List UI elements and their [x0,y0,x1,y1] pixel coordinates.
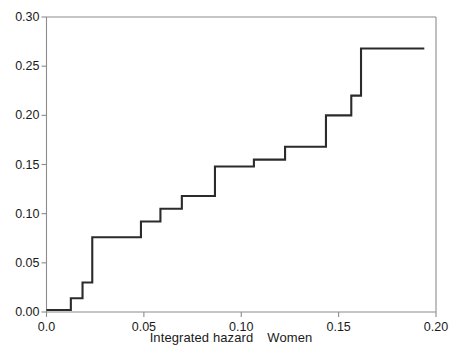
y-tick-label: 0.15 [6,159,40,172]
y-tick-label: 0.00 [6,306,40,319]
y-tick-label: 0.10 [6,208,40,221]
step-chart-plot [0,0,462,362]
y-tick-label: 0.25 [6,60,40,73]
hazard-step-line [47,48,425,310]
x-axis-title-main: Integrated hazard [150,330,254,345]
figure-container: 0.000.050.100.150.200.250.30 0.00.050.10… [0,0,462,362]
axis-frame [47,17,437,312]
y-tick-label: 0.05 [6,257,40,270]
y-tick-label: 0.30 [6,11,40,24]
y-tick-label: 0.20 [6,109,40,122]
x-axis-title: Integrated hazardWomen [0,330,462,345]
x-axis-title-group: Women [267,330,312,345]
